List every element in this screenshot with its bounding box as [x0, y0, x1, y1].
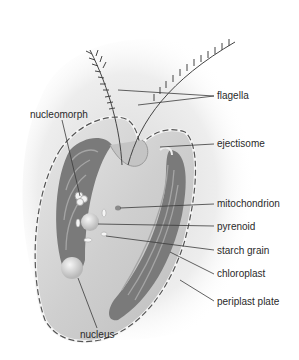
cryptomonad-diagram: flagella ejectisome mitochondrion pyreno… — [0, 0, 299, 360]
pyrenoid — [81, 213, 99, 231]
label-ejectisome: ejectisome — [217, 138, 265, 149]
label-nucleomorph: nucleomorph — [30, 109, 88, 120]
label-mitochondrion: mitochondrion — [217, 198, 280, 209]
nucleus — [61, 257, 83, 279]
label-starch-grain: starch grain — [217, 245, 269, 256]
label-pyrenoid: pyrenoid — [217, 221, 255, 232]
label-nucleus: nucleus — [80, 329, 114, 340]
label-flagella: flagella — [217, 90, 249, 101]
label-periplast-plate: periplast plate — [217, 296, 279, 307]
label-chloroplast: chloroplast — [217, 268, 265, 279]
